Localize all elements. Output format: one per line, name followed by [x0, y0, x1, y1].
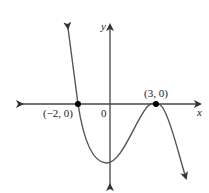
point-3-0 [153, 101, 159, 107]
point-label-neg2: (−2, 0) [43, 107, 73, 119]
y-axis-label: y [101, 20, 106, 32]
x-axis-label: x [197, 106, 202, 118]
point-label-3: (3, 0) [144, 87, 168, 99]
point-neg2-0 [75, 101, 81, 107]
origin-label: 0 [101, 107, 107, 119]
graph-figure: y x 0 (−2, 0) (3, 0) [0, 0, 209, 193]
cubic-curve [68, 28, 186, 178]
